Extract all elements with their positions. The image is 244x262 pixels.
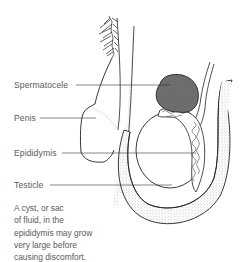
- penis-outline: [80, 58, 114, 162]
- pubic-hair: [99, 16, 118, 58]
- label-testicle: Testicle: [14, 180, 43, 190]
- label-penis: Penis: [14, 113, 36, 123]
- caption-line: causing discomfort.: [14, 251, 124, 262]
- caption-line: epididymis may grow: [14, 227, 124, 239]
- label-spermatocele: Spermatocele: [14, 80, 68, 90]
- figure-caption: A cyst, or sac of fluid, in the epididym…: [14, 202, 124, 262]
- caption-line: of fluid, in the: [14, 214, 124, 226]
- caption-line: very large before: [14, 239, 124, 251]
- caption-line: A cyst, or sac: [14, 202, 124, 214]
- label-epididymis: Epididymis: [14, 148, 57, 158]
- spermatocele-cyst: [156, 74, 198, 112]
